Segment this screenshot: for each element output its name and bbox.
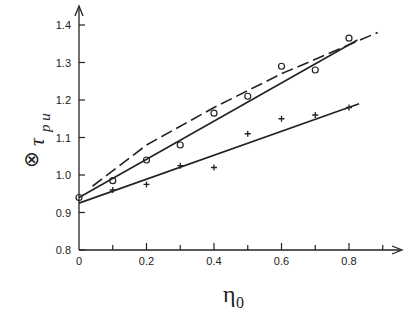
y-axis-label: τ p u ⊗ bbox=[20, 113, 53, 168]
x-axis-label: η 0 bbox=[223, 281, 244, 311]
plus-marker-icon bbox=[312, 112, 318, 118]
y-tick-label: 1.3 bbox=[56, 57, 71, 69]
x-label-subscript: 0 bbox=[236, 294, 244, 311]
y-tick-label: 0.8 bbox=[56, 244, 71, 256]
x-tick-label: 0 bbox=[76, 255, 82, 267]
y-label-superscript: ⊗ bbox=[20, 151, 42, 168]
circle-marker-icon bbox=[279, 63, 285, 69]
y-tick-label: 1.2 bbox=[56, 94, 71, 106]
plus-marker-icon bbox=[245, 131, 251, 137]
y-label-subscript: p u bbox=[37, 113, 53, 133]
plus-marker-icon bbox=[279, 116, 285, 122]
circle-marker-icon bbox=[245, 93, 251, 99]
x-tick-label: 0.4 bbox=[206, 255, 221, 267]
plus-marker-icon bbox=[144, 181, 150, 187]
plot-area bbox=[76, 33, 378, 204]
x-label-eta: η bbox=[223, 281, 236, 307]
y-tick-label: 0.9 bbox=[56, 207, 71, 219]
circle-marker-icon bbox=[312, 67, 318, 73]
chart: 0.80.91.01.11.21.31.400.20.40.60.8 τ p u… bbox=[0, 0, 409, 317]
x-tick-label: 0.2 bbox=[139, 255, 154, 267]
x-tick-label: 0.8 bbox=[341, 255, 356, 267]
circle-marker-icon bbox=[346, 35, 352, 41]
circle-marker-icon bbox=[177, 142, 183, 148]
y-tick-label: 1.1 bbox=[56, 132, 71, 144]
circle-marker-icon bbox=[211, 110, 217, 116]
y-label-tau: τ bbox=[24, 137, 49, 146]
y-tick-label: 1.4 bbox=[56, 19, 71, 31]
plus-marker-icon bbox=[211, 165, 217, 171]
x-tick-label: 0.6 bbox=[274, 255, 289, 267]
y-tick-label: 1.0 bbox=[56, 169, 71, 181]
